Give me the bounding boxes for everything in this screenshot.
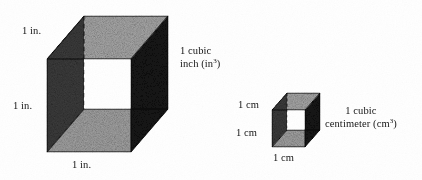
cm-cube-left-edge-label: 1 cm	[236, 127, 257, 140]
inch-cube-caption-unit-suffix: )	[217, 58, 221, 69]
inch-cube-bottom-edge-label: 1 in.	[72, 159, 91, 172]
inch-cube-top-edge-label: 1 in.	[22, 25, 41, 38]
cm-cube	[272, 93, 320, 147]
figure-root: 1 in. 1 in. 1 in. 1 cubic inch (in3) 1 c…	[0, 0, 422, 180]
cm-cube-caption-line1: 1 cubic	[325, 105, 397, 118]
inch-cube-caption: 1 cubic inch (in3)	[180, 45, 220, 70]
inch-cube-caption-line2: inch (in3)	[180, 58, 220, 71]
inch-cube-left-edge-label: 1 in.	[13, 100, 32, 113]
cm-cube-caption: 1 cubic centimeter (cm3)	[325, 105, 397, 130]
cubes-illustration	[0, 0, 422, 180]
inch-cube	[47, 16, 168, 152]
cm-cube-caption-line2: centimeter (cm3)	[325, 118, 397, 131]
inch-cube-caption-unit-prefix: inch (in	[180, 58, 213, 69]
cm-cube-bottom-edge-label: 1 cm	[273, 152, 294, 165]
cm-cube-caption-unit-suffix: )	[393, 118, 397, 129]
cm-cube-top-edge-label: 1 cm	[238, 99, 259, 112]
cm-cube-caption-unit-prefix: centimeter (cm	[325, 118, 390, 129]
